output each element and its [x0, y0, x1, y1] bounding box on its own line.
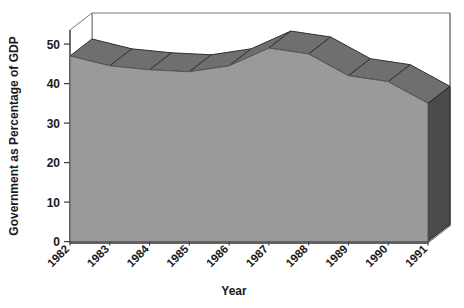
area-chart-3d: 0 10 20 30 40 50 19821983198419851986198… — [0, 0, 464, 308]
x-axis-title: Year — [221, 284, 247, 298]
y-tick-label-40: 40 — [47, 77, 61, 91]
y-tick-label-50: 50 — [47, 38, 61, 52]
y-tick-label-10: 10 — [47, 196, 61, 210]
y-tick-label-20: 20 — [47, 156, 61, 170]
series-area-government-gdp — [70, 31, 450, 242]
area-right-side-face — [428, 86, 450, 241]
chart-canvas: 0 10 20 30 40 50 19821983198419851986198… — [0, 0, 464, 308]
y-tick-label-30: 30 — [47, 117, 61, 131]
y-axis-title: Government as Percentage of GDP — [7, 36, 21, 235]
